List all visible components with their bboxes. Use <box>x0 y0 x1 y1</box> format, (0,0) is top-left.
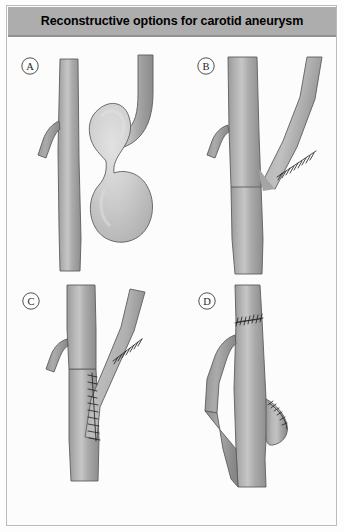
ligated-stump-d <box>266 399 287 445</box>
figure-root: Reconstructive options for carotid aneur… <box>0 0 344 532</box>
external-carotid-branch-b <box>207 125 229 158</box>
panel-a: A <box>22 55 153 271</box>
internal-carotid-proximal-c <box>67 285 96 369</box>
panel-a-label-text: A <box>26 61 34 72</box>
common-carotid-artery-b <box>231 185 263 274</box>
panel-d: D <box>199 285 288 487</box>
carotid-illustration-svg: A B <box>7 39 336 525</box>
panel-b-label: B <box>198 58 214 74</box>
external-carotid-lower-d <box>205 411 238 487</box>
page-title: Reconstructive options for carotid aneur… <box>41 14 303 28</box>
common-carotid-artery-a <box>58 59 81 271</box>
figure-title-bar: Reconstructive options for carotid aneur… <box>8 7 336 37</box>
reconstructed-carotid-trunk-d <box>234 319 267 487</box>
panel-b-label-text: B <box>202 61 209 72</box>
panel-d-label-text: D <box>203 296 211 307</box>
panel-b: B <box>198 57 322 274</box>
panel-c: C <box>23 285 145 481</box>
panel-c-label-text: C <box>27 296 34 307</box>
illustration-canvas: A B <box>7 39 336 525</box>
internal-carotid-proximal-b <box>228 57 261 187</box>
reconstructed-internal-carotid-b <box>261 57 322 189</box>
external-carotid-branch-a <box>38 121 60 158</box>
panel-c-label: C <box>23 293 39 309</box>
external-carotid-branch-d <box>205 335 236 413</box>
panel-d-label: D <box>199 293 215 309</box>
panel-a-label: A <box>22 58 38 74</box>
external-carotid-branch-c <box>46 339 68 372</box>
